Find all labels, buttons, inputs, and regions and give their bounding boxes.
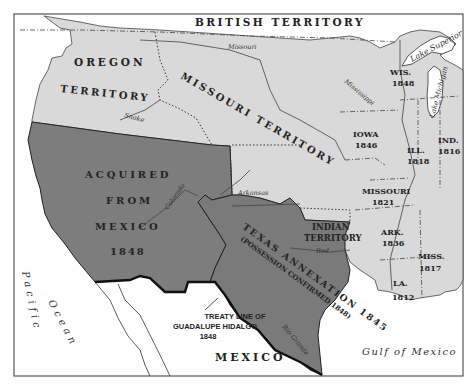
label-river-arkansas: Arkansas <box>237 189 269 197</box>
label-from: FROM <box>106 195 153 206</box>
us-territorial-expansion-map: BRITISH TERRITORY OREGON TERRITORY MISSO… <box>0 0 476 388</box>
state-miss: MISS. <box>418 251 445 261</box>
label-1848: 1848 <box>110 246 146 257</box>
state-la: LA. <box>393 278 408 288</box>
state-iowa-year: 1846 <box>355 140 378 150</box>
label-mexico-cession: MEXICO <box>95 221 161 232</box>
state-ill-year: 1818 <box>407 156 430 166</box>
treaty-label-line3: 1848 <box>200 332 217 341</box>
label-indian-territory: TERRITORY <box>304 233 362 243</box>
state-wis: WIS. <box>389 67 411 77</box>
state-missouri-year: 1821 <box>372 197 394 207</box>
state-ark-year: 1836 <box>382 238 405 248</box>
treaty-label-line1: TREATY LINE OF <box>205 312 266 321</box>
state-iowa: IOWA <box>353 129 379 139</box>
state-miss-year: 1817 <box>419 263 441 273</box>
state-ind: IND. <box>438 135 459 145</box>
state-la-year: 1812 <box>392 292 414 302</box>
state-wis-year: 1848 <box>392 78 415 88</box>
label-mexico: MEXICO <box>215 351 286 364</box>
label-gulf-of-mexico: Gulf of Mexico <box>362 346 457 357</box>
treaty-label-line2: GUADALUPE HIDALGO <box>173 322 257 331</box>
state-ark: ARK. <box>380 227 404 237</box>
label-acquired: ACQUIRED <box>84 169 171 180</box>
label-british-territory: BRITISH TERRITORY <box>195 16 365 28</box>
label-river-red: Red <box>315 247 329 255</box>
label-oregon: OREGON <box>74 56 146 68</box>
state-ill: ILL. <box>407 145 425 155</box>
state-ind-year: 1816 <box>438 146 461 156</box>
label-river-missouri: Missouri <box>227 43 257 51</box>
label-indian: INDIAN <box>312 222 350 232</box>
state-missouri: MISSOURI <box>362 186 411 196</box>
